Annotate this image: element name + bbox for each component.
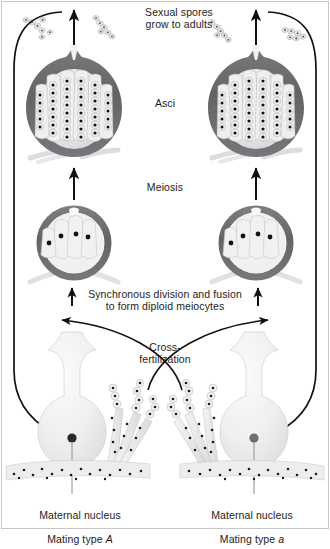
label-asci: Asci <box>130 97 200 109</box>
conidiophore-cluster-right <box>167 379 218 463</box>
mating-type-left: A <box>106 533 113 545</box>
maternal-left-line2: Mating type A <box>10 533 150 545</box>
maternal-right-line1: Maternal nucleus <box>182 509 322 521</box>
maternal-right-prefix: Mating type <box>220 533 278 545</box>
label-cross-fertilization: Cross- fertilization <box>132 341 198 365</box>
released-spore-adult-left-outer <box>22 11 54 43</box>
label-synchronous-division: Synchronous division and fusion to form … <box>58 288 272 312</box>
meiocyte-neck-right <box>251 208 261 216</box>
mating-type-right: a <box>278 533 284 545</box>
basal-mycelium-right <box>180 460 324 480</box>
ascus-structure-right <box>208 42 304 162</box>
meiocyte-structure-right <box>212 208 300 283</box>
released-spore-adult-right-outer <box>281 25 306 43</box>
maternal-left-line1: Maternal nucleus <box>10 509 150 521</box>
ascus-columns-right <box>217 70 295 142</box>
basal-mycelium-left <box>6 460 150 480</box>
label-maternal-left: Maternal nucleus Mating type A <box>10 497 150 549</box>
maternal-right-line2: Mating type a <box>182 533 322 545</box>
released-spore-adult-left-inner <box>89 15 119 40</box>
maternal-nucleus-right <box>249 433 258 442</box>
label-meiosis: Meiosis <box>127 181 203 193</box>
label-maternal-right: Maternal nucleus Mating type a <box>182 497 322 549</box>
label-sexual-spores: Sexual spores grow to adults <box>120 6 238 30</box>
ascus-columns-left <box>35 70 113 142</box>
maternal-left-prefix: Mating type <box>47 533 105 545</box>
meiocyte-neck-left <box>69 208 79 216</box>
conidiophore-cluster-left <box>108 379 159 463</box>
meiocyte-structure-left <box>30 208 118 283</box>
maternal-nucleus-left <box>67 433 76 442</box>
ascus-structure-left <box>26 42 122 162</box>
